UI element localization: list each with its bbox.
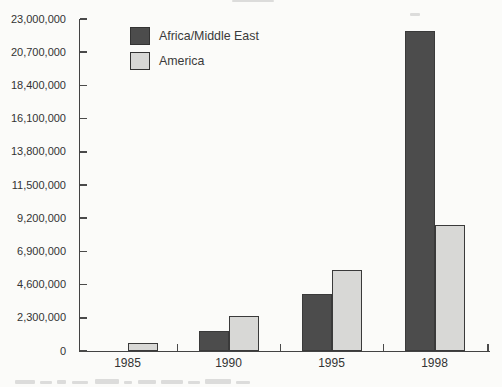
y-tick-label: 0: [0, 345, 66, 358]
bar-america-1985: [128, 343, 158, 351]
y-tick: [80, 51, 87, 53]
y-tick-label: 6,900,000: [0, 245, 66, 258]
y-tick-label: 18,400,000: [0, 79, 66, 92]
y-tick-label: 2,300,000: [0, 311, 66, 324]
x-tick-label: 1995: [302, 356, 362, 370]
x-tick: [280, 344, 282, 351]
y-tick: [80, 317, 87, 319]
y-tick: [80, 85, 87, 87]
x-tick-label: 1985: [98, 356, 158, 370]
y-tick-label: 16,100,000: [0, 112, 66, 125]
x-tick-label: 1998: [405, 356, 465, 370]
scanned-bar-chart-figure: 02,300,0004,600,0006,900,0009,200,00011,…: [0, 0, 502, 387]
y-tick: [80, 284, 87, 286]
bar-africa-middle-east-1990: [199, 331, 229, 351]
legend-swatch-america: [130, 52, 150, 70]
legend-item-africa-middle-east: Africa/Middle East: [130, 27, 259, 45]
bar-america-1990: [229, 316, 259, 351]
cropped-print-artifact: [161, 380, 183, 384]
cropped-print-artifact: [124, 381, 132, 384]
cropped-print-artifact: [40, 381, 52, 384]
x-tick: [383, 344, 385, 351]
y-tick: [80, 18, 87, 20]
bar-africa-middle-east-1998: [405, 31, 435, 351]
y-tick-label: 13,800,000: [0, 145, 66, 158]
y-tick-label: 4,600,000: [0, 278, 66, 291]
bar-africa-middle-east-1995: [302, 294, 332, 351]
cropped-print-artifact: [236, 381, 250, 384]
cropped-print-artifact: [57, 380, 66, 384]
legend: Africa/Middle East America: [130, 27, 259, 77]
x-tick: [177, 344, 179, 351]
bar-america-1998: [435, 225, 465, 351]
cropped-print-artifact: [410, 13, 420, 16]
y-tick: [80, 118, 87, 120]
y-tick: [80, 350, 87, 352]
y-tick: [80, 217, 87, 219]
bar-america-1995: [332, 270, 362, 351]
x-tick-label: 1990: [199, 356, 259, 370]
y-tick: [80, 251, 87, 253]
legend-item-america: America: [130, 52, 259, 70]
x-tick: [487, 344, 489, 351]
cropped-print-artifact: [15, 380, 35, 384]
y-tick: [80, 151, 87, 153]
cropped-print-artifact: [205, 379, 231, 384]
cropped-print-artifact: [232, 0, 274, 2]
y-tick: [80, 184, 87, 186]
y-tick-label: 9,200,000: [0, 212, 66, 225]
legend-label-america: America: [159, 54, 204, 68]
legend-label-africa-middle-east: Africa/Middle East: [159, 29, 259, 43]
y-tick-label: 11,500,000: [0, 179, 66, 192]
cropped-print-artifact: [95, 379, 119, 384]
y-tick-label: 23,000,000: [0, 13, 66, 26]
legend-swatch-africa-middle-east: [130, 27, 150, 45]
y-tick-label: 20,700,000: [0, 46, 66, 59]
cropped-print-artifact: [72, 381, 88, 384]
cropped-print-artifact: [138, 380, 156, 384]
cropped-print-artifact: [188, 381, 200, 384]
